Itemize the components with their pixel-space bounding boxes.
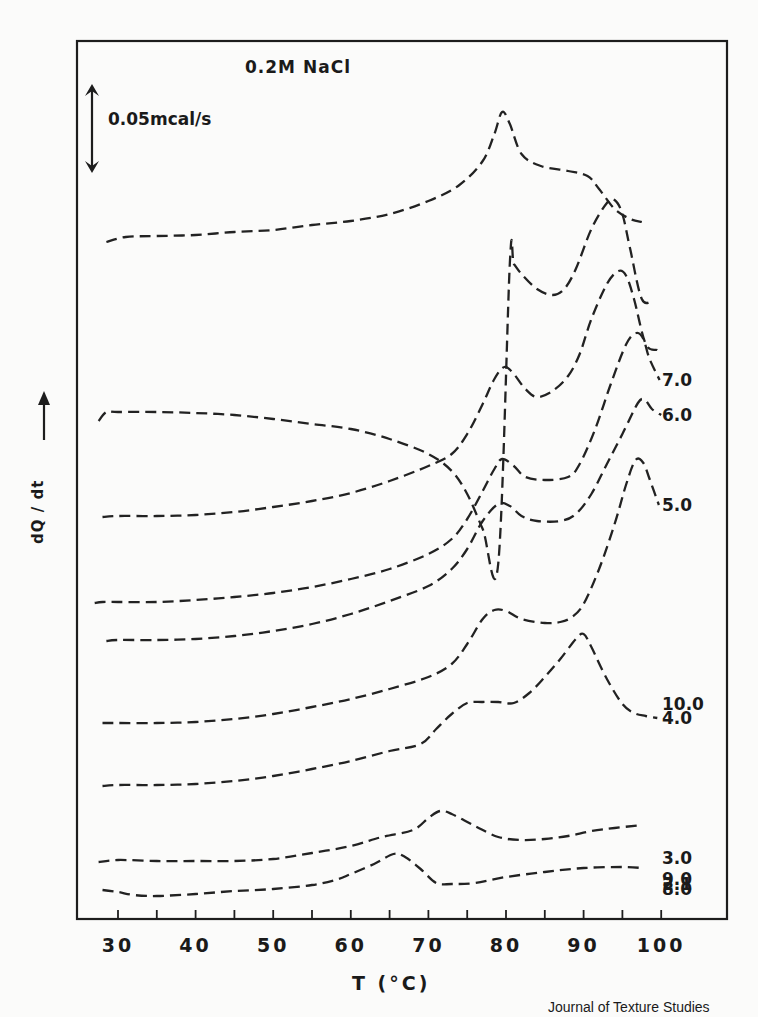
series-label-ph-2-1: 2.1	[662, 874, 692, 894]
x-tick-label: 60	[335, 934, 367, 956]
journal-credit: Journal of Texture Studies	[548, 999, 710, 1015]
series-label-ph-7-0: 7.0	[662, 370, 692, 390]
series-label-ph-5-0: 5.0	[662, 495, 692, 515]
x-tick-label: 100	[637, 934, 686, 956]
x-tick-label: 90	[567, 934, 599, 956]
curve-ph-5-0	[103, 458, 659, 723]
series-label-ph-4-0: 4.0	[662, 708, 692, 728]
curve-ph-2-1	[103, 854, 642, 896]
scale-bar-label: 0.05mcal/s	[108, 109, 211, 129]
curve-ph-10-0	[106, 112, 641, 242]
x-axis-tick-labels: 30405060708090100	[102, 934, 686, 956]
series-label-ph-3-0: 3.0	[662, 848, 692, 868]
curve-ph-3-0	[99, 811, 642, 862]
x-tick-label: 50	[257, 934, 289, 956]
series-labels: 10.09.08.07.06.05.04.03.02.1	[662, 370, 704, 899]
curve-ph-7-0	[95, 333, 660, 603]
y-axis-label-group: dQ / dt	[29, 480, 47, 544]
x-tick-label: 80	[490, 934, 522, 956]
curve-ph-9-0	[99, 199, 654, 579]
curve-ph-4-0	[103, 634, 658, 786]
curve-ph-8-0	[103, 271, 658, 517]
dsc-thermogram-chart: 0.2M NaCl 0.05mcal/s dQ / dt 30405060708…	[0, 0, 758, 1017]
curves	[95, 112, 662, 896]
chart-title: 0.2M NaCl	[245, 57, 351, 77]
scale-bar: 0.05mcal/s	[85, 84, 211, 173]
curve-ph-6-0	[106, 399, 661, 641]
x-tick-label: 40	[179, 934, 211, 956]
x-tick-label: 30	[102, 934, 134, 956]
x-tick-label: 70	[412, 934, 444, 956]
y-axis-up-arrow-icon	[38, 391, 50, 405]
x-axis-label: T (°C)	[352, 972, 430, 994]
x-axis-ticks	[118, 910, 661, 919]
y-axis-label: dQ / dt	[29, 480, 47, 544]
series-label-ph-6-0: 6.0	[662, 405, 692, 425]
plot-frame	[77, 41, 727, 919]
